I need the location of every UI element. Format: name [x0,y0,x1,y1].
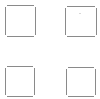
square-edge-left [5,68,6,95]
square-edge-top [7,66,33,67]
square-edge-right [34,68,35,95]
square-edge-left [65,8,66,35]
square-edge-right [96,8,97,35]
square-edge-right [95,69,96,95]
square-edge-left [66,69,67,95]
square-edge-top [68,67,94,68]
square-edge-top [67,6,95,7]
square-edge-left [5,7,6,35]
square-edge-bottom [67,36,95,37]
square-top-left [5,5,36,37]
square-edge-right [35,7,36,35]
square-bottom-left [5,66,35,97]
square-edge-bottom [7,36,34,37]
square-edge-top [7,5,34,6]
square-top-right [65,6,97,37]
square-edge-bottom [7,96,33,97]
square-edge-bottom [68,96,94,97]
faint-dot [79,13,81,14]
square-bottom-right [66,67,96,97]
